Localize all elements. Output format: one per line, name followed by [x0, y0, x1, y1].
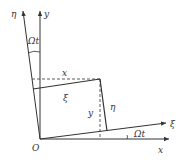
- eta-proj-label: η: [110, 102, 116, 112]
- xi-projection: [33, 79, 100, 89]
- angle-arc-bottom: [127, 135, 128, 139]
- angle-top-label: Ωt: [27, 36, 39, 46]
- angle-arc-top: [28, 51, 40, 53]
- rotating-frame-diagram: η y Ωt x ξ y η ξ Ωt x O: [0, 0, 183, 161]
- y-axis-label: y: [43, 9, 50, 19]
- xi-proj-label: ξ: [63, 93, 69, 103]
- angle-bottom-label: Ωt: [133, 129, 145, 139]
- x-proj-label: x: [62, 68, 67, 78]
- x-axis-label: x: [158, 145, 163, 155]
- eta-projection: [100, 79, 107, 131]
- xi-axis: [40, 123, 166, 139]
- diagram-svg: η y Ωt x ξ y η ξ Ωt x O: [0, 0, 183, 161]
- xi-axis-label: ξ: [170, 119, 176, 129]
- eta-axis-label: η: [11, 9, 17, 19]
- eta-axis: [23, 11, 40, 139]
- y-proj-label: y: [87, 108, 94, 118]
- origin-label: O: [32, 143, 40, 153]
